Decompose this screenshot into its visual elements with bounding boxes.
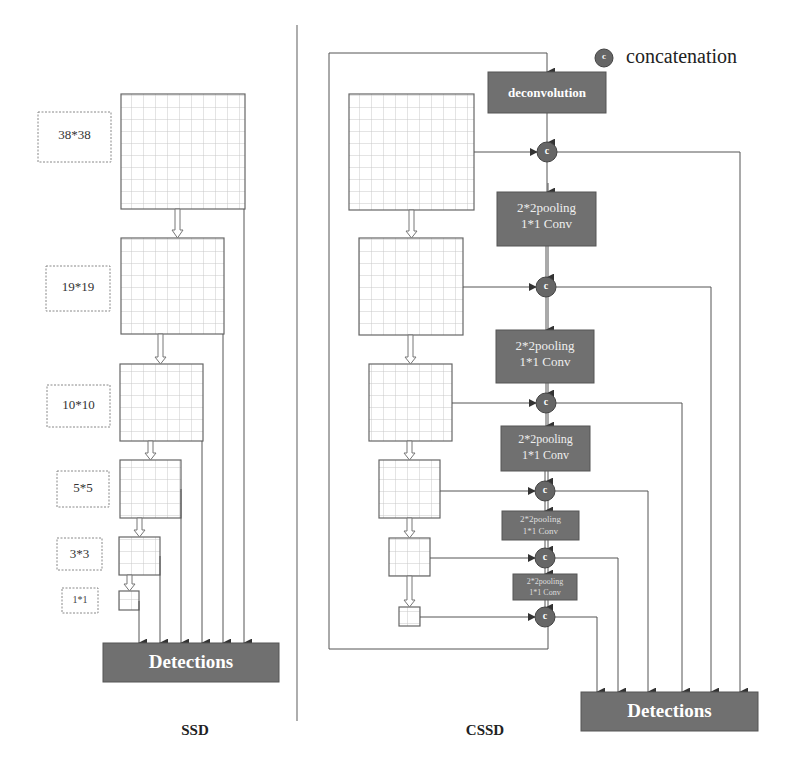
legend-concat-icon (595, 49, 613, 67)
concat-node-5 (535, 548, 555, 568)
downsample-arrow (404, 518, 415, 538)
concat-node-4 (535, 481, 555, 501)
concat-node-1 (537, 142, 557, 162)
feature-map-3 (119, 537, 160, 575)
downsample-arrow (124, 575, 135, 591)
cssd-feature-map-19 (359, 238, 463, 335)
cssd-detections-block (581, 692, 758, 731)
ssd-detections-block (103, 643, 279, 682)
output-line-6 (555, 617, 597, 692)
downsample-arrow (404, 576, 415, 607)
pooling-block-1 (497, 192, 596, 246)
size-label-box-5 (57, 471, 109, 507)
feature-map-1 (119, 591, 139, 610)
feature-map-38 (121, 94, 245, 209)
feature-map-10 (120, 364, 203, 441)
feature-map-19 (121, 238, 224, 334)
downsample-arrow (155, 334, 166, 364)
cssd-feature-map-3 (389, 538, 430, 576)
size-label-box-19 (46, 266, 110, 311)
cssd-feature-map-1 (399, 607, 420, 626)
ssd-section (38, 94, 279, 682)
concat-node-3 (536, 393, 556, 413)
cssd-section (329, 49, 758, 731)
pooling-block-2 (496, 330, 594, 383)
downsample-arrow (406, 210, 417, 238)
size-label-box-10 (47, 385, 110, 427)
size-label-box-3 (57, 538, 102, 570)
downsample-arrow (405, 335, 416, 364)
size-label-box-38 (38, 112, 111, 162)
concat-node-6 (535, 607, 555, 627)
feature-map-5 (120, 460, 181, 518)
downsample-arrow (172, 209, 183, 238)
deconvolution-block (488, 72, 606, 113)
size-label-box-1 (62, 588, 98, 613)
downsample-arrow (134, 518, 145, 537)
pooling-block-3 (501, 426, 590, 471)
pooling-block-5 (513, 574, 577, 600)
cssd-feature-map-10 (369, 364, 452, 441)
cssd-feature-map-38 (349, 94, 474, 210)
concat-node-2 (536, 277, 556, 297)
downsample-arrow (404, 441, 415, 460)
pooling-block-4 (502, 511, 579, 540)
cssd-feature-map-5 (379, 460, 440, 518)
downsample-arrow (145, 441, 156, 460)
diagram-canvas (0, 0, 787, 771)
